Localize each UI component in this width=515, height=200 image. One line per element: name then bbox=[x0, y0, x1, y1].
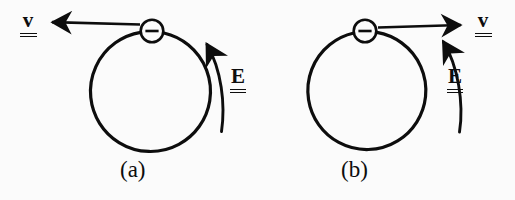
panel-b: v E (b) bbox=[257, 0, 514, 200]
panel-caption-b: (b) bbox=[341, 158, 368, 181]
panel-a: v E (a) bbox=[0, 0, 257, 200]
vector-underline-2 bbox=[230, 92, 246, 93]
vector-underline-2 bbox=[447, 92, 463, 93]
velocity-glyph-a: v bbox=[18, 10, 38, 32]
vector-underline-1 bbox=[20, 33, 37, 34]
orbit-circle bbox=[308, 32, 426, 149]
field-glyph-a: E bbox=[228, 66, 248, 88]
electron-particle bbox=[354, 20, 377, 43]
field-glyph-b: E bbox=[445, 66, 465, 88]
vector-underline-1 bbox=[230, 89, 246, 90]
electron-particle bbox=[141, 20, 164, 43]
figure-electron-orbit-diagram: v E (a) bbox=[0, 0, 515, 200]
velocity-glyph-b: v bbox=[473, 10, 493, 32]
velocity-arrow bbox=[378, 25, 461, 28]
velocity-arrow bbox=[52, 22, 140, 24]
vector-underline-2 bbox=[475, 36, 492, 37]
field-label-b: E bbox=[445, 66, 465, 93]
velocity-label-a: v bbox=[18, 10, 38, 37]
field-label-a: E bbox=[228, 66, 248, 93]
panel-caption-a: (a) bbox=[120, 158, 146, 181]
vector-underline-1 bbox=[447, 89, 463, 90]
velocity-label-b: v bbox=[473, 10, 493, 37]
vector-underline-1 bbox=[475, 33, 492, 34]
vector-underline-2 bbox=[20, 36, 37, 37]
orbit-circle bbox=[90, 32, 210, 151]
